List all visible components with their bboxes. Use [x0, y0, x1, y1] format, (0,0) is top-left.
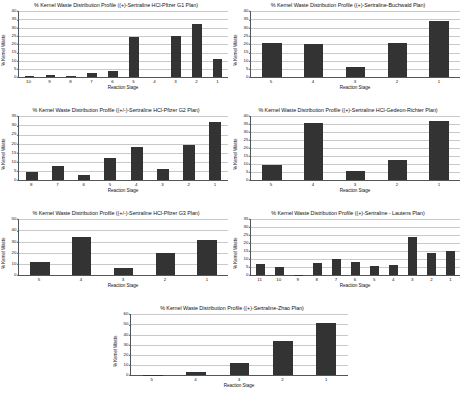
x-tick-label: 1 — [304, 377, 348, 382]
bar — [26, 172, 38, 180]
bar — [346, 67, 365, 77]
y-tick-label: 30 — [244, 26, 249, 30]
bar — [273, 341, 293, 376]
chart-title: % Kernel Waste Distribution Profile ((+/… — [0, 107, 232, 114]
x-tick-label: 4 — [144, 79, 165, 84]
bar-series — [19, 11, 228, 77]
bar-cell — [305, 314, 348, 375]
bar-cell — [418, 11, 460, 77]
bar — [25, 76, 35, 78]
y-tick-label: 20 — [244, 42, 249, 46]
x-tick-label: 1 — [418, 182, 460, 187]
x-tick-label: 7 — [44, 182, 70, 187]
bar-cell — [61, 11, 82, 77]
x-axis-ticks: 54321 — [18, 277, 228, 282]
bar-cell — [176, 116, 202, 180]
y-tick-label: 25 — [244, 34, 249, 38]
bar-cell — [131, 314, 174, 375]
x-tick-label: 2 — [186, 79, 207, 84]
chart-grid: % Kernel Waste Distribution Profile ((+)… — [0, 0, 464, 408]
y-tick-label: 35 — [244, 217, 249, 221]
bar — [46, 75, 56, 77]
bar — [388, 160, 407, 180]
bar — [213, 59, 223, 77]
chart-title: % Kernel Waste Distribution Profile ((+/… — [0, 210, 232, 217]
y-tick-label: 30 — [124, 343, 129, 347]
bar-cell — [289, 219, 308, 275]
y-tick-label: 30 — [12, 123, 17, 127]
bar-cell — [376, 11, 418, 77]
bar — [332, 259, 341, 275]
bar-cell — [376, 116, 418, 180]
plot-area — [250, 219, 460, 276]
y-tick-label: 25 — [244, 233, 249, 237]
plot-area — [18, 219, 228, 276]
x-tick-label: 2 — [376, 182, 418, 187]
bar-series — [251, 11, 460, 77]
y-axis-ticks: 0510152025303540 — [239, 11, 250, 77]
bar — [171, 36, 181, 77]
x-axis-label: Reaction Stage — [130, 383, 348, 388]
y-tick-label: 0 — [14, 178, 16, 182]
y-tick-label: 10 — [12, 262, 17, 266]
chart-pfizer-g3: % Kernel Waste Distribution Profile ((+/… — [0, 210, 232, 305]
bar — [256, 264, 265, 275]
y-tick-label: 20 — [12, 42, 17, 46]
bar-cell — [403, 219, 422, 275]
x-tick-label: 1 — [418, 79, 460, 84]
bar-cell — [19, 219, 61, 275]
bar — [114, 268, 133, 275]
y-tick-label: 20 — [12, 251, 17, 255]
bar — [30, 262, 49, 275]
bar — [262, 165, 281, 180]
y-tick-label: 30 — [244, 130, 249, 134]
y-tick-label: 25 — [12, 34, 17, 38]
bar-cell — [418, 116, 460, 180]
y-tick-label: 35 — [244, 17, 249, 21]
bar — [304, 123, 323, 181]
bar — [346, 171, 365, 181]
x-axis-label: Reaction Stage — [18, 85, 228, 90]
bar-cell — [293, 11, 335, 77]
y-tick-label: 0 — [246, 273, 248, 277]
bar — [316, 323, 336, 375]
bar-cell — [218, 314, 261, 375]
bar-cell — [144, 219, 186, 275]
x-tick-label: 8 — [307, 277, 326, 282]
y-axis-label: % Kernel Waste — [232, 11, 239, 90]
plot-area — [18, 11, 228, 78]
y-tick-label: 5 — [246, 67, 248, 71]
chart-title: % Kernel Waste Distribution Profile ((+)… — [232, 2, 464, 9]
y-tick-label: 20 — [124, 353, 129, 357]
y-axis-ticks: 01020304050 — [7, 219, 18, 275]
chart-title: % Kernel Waste Distribution Profile ((+)… — [232, 107, 464, 114]
x-tick-label: 10 — [269, 277, 288, 282]
chart-pfizer-g1: % Kernel Waste Distribution Profile ((+)… — [0, 2, 232, 107]
y-tick-label: 40 — [244, 114, 249, 118]
y-axis-ticks: 05101520253035 — [239, 219, 250, 275]
bar — [186, 372, 206, 375]
y-tick-label: 40 — [12, 228, 17, 232]
y-tick-label: 40 — [12, 9, 17, 13]
y-axis-ticks: 0510152025303540 — [239, 116, 250, 180]
x-tick-label: 10 — [18, 79, 39, 84]
chart-title: % Kernel Waste Distribution Profile ((+)… — [0, 2, 232, 9]
y-tick-label: 10 — [124, 363, 129, 367]
y-axis-ticks: 0102030405060 — [119, 314, 130, 375]
bar-cell — [308, 219, 327, 275]
x-axis-ticks: 54321 — [130, 377, 348, 382]
bar-cell — [365, 219, 384, 275]
bar — [156, 253, 175, 275]
bar — [183, 145, 195, 181]
x-tick-label: 5 — [123, 79, 144, 84]
x-tick-label: 3 — [149, 182, 175, 187]
bar-cell — [207, 11, 228, 77]
bar — [429, 21, 448, 77]
x-axis-label: Reaction Stage — [250, 85, 460, 90]
x-tick-label: 3 — [334, 79, 376, 84]
bar-cell — [251, 116, 293, 180]
y-tick-label: 35 — [12, 114, 17, 118]
bar — [66, 76, 76, 77]
x-tick-label: 4 — [292, 79, 334, 84]
x-tick-label: 3 — [217, 377, 261, 382]
